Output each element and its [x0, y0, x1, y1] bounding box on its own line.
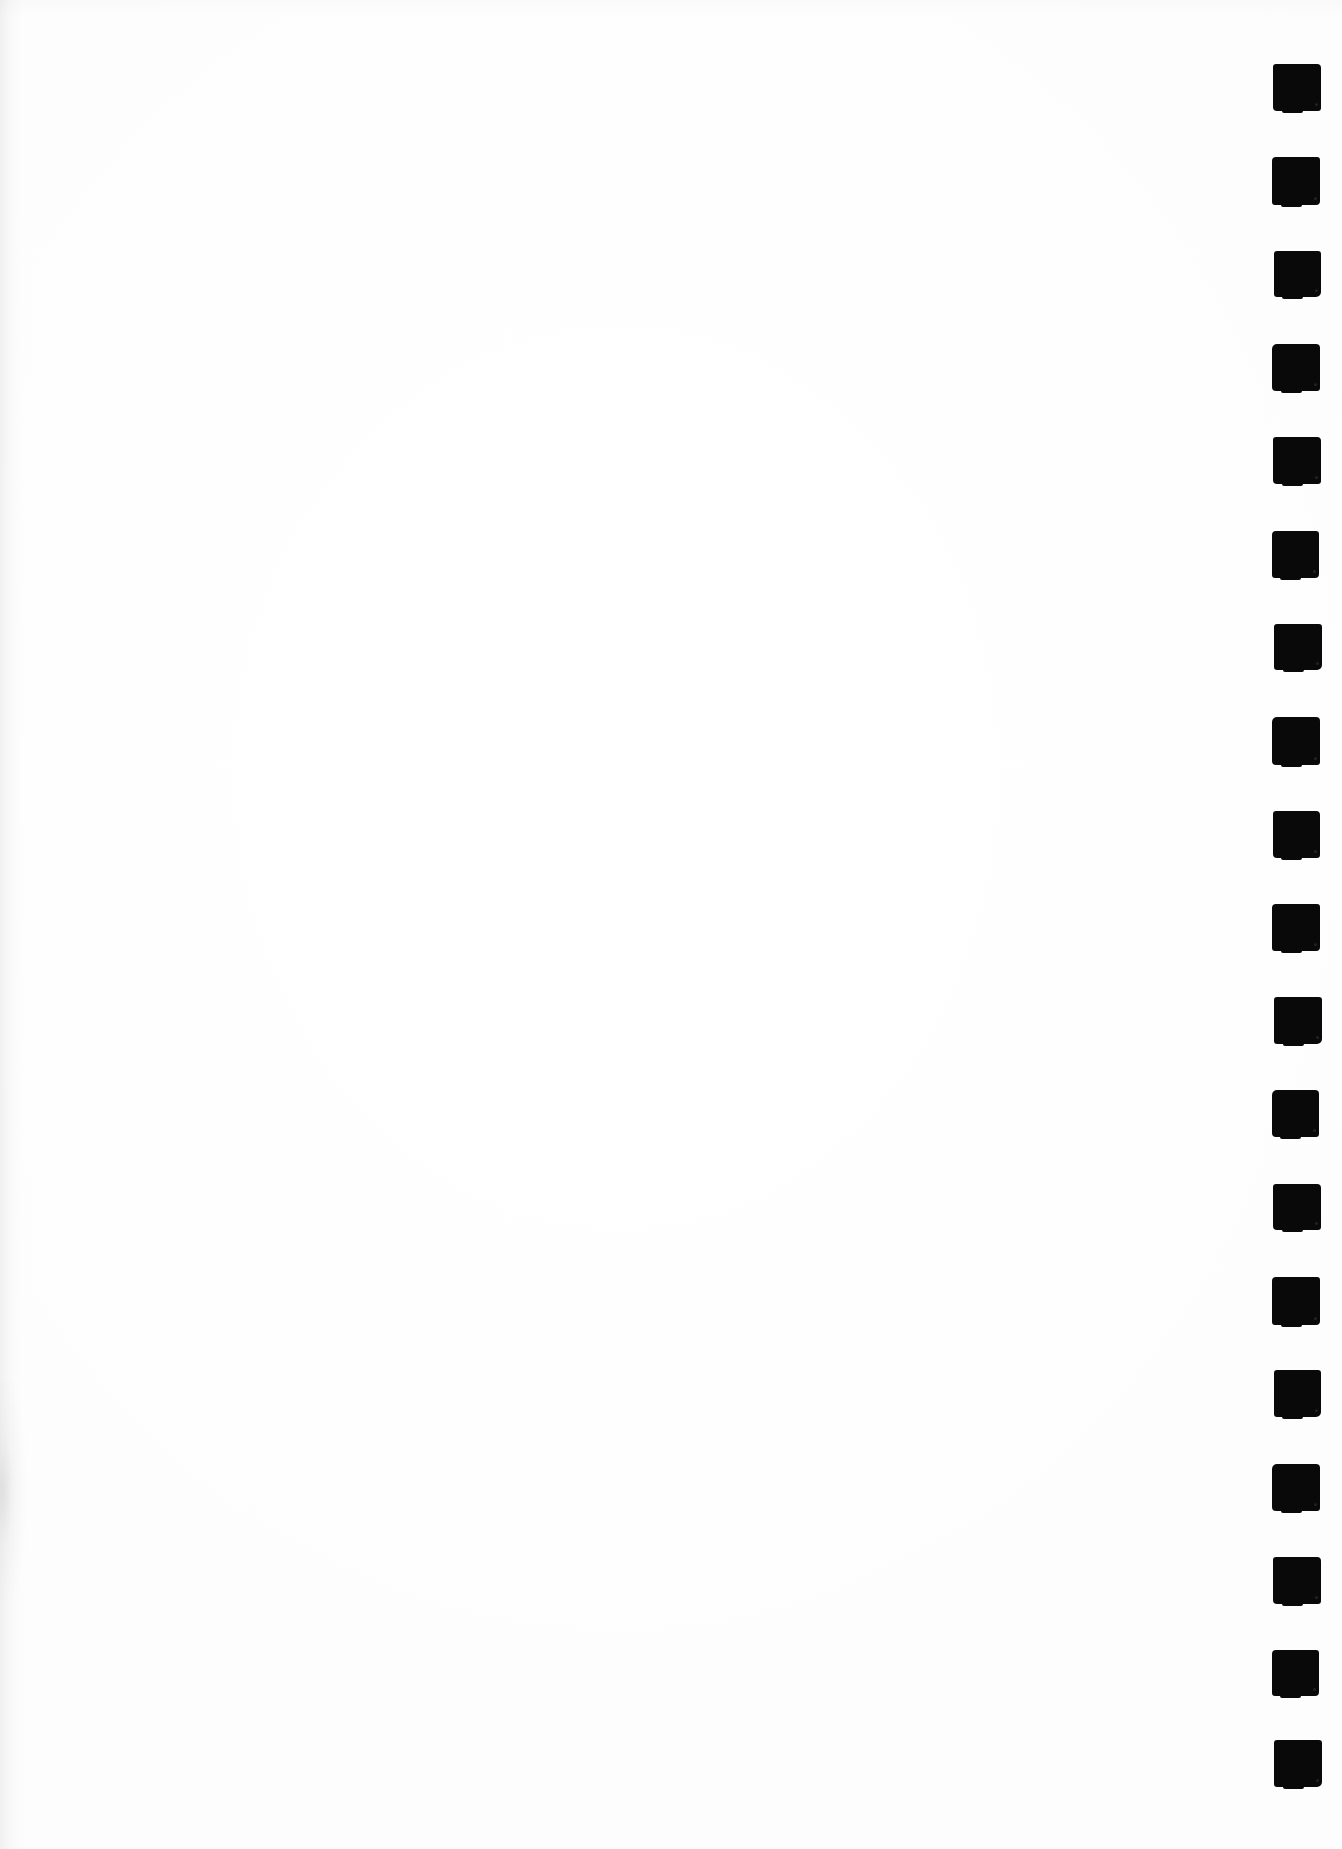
register-mark: [1273, 811, 1320, 858]
register-mark: [1273, 437, 1321, 484]
register-mark: [1272, 717, 1320, 765]
register-mark: [1274, 624, 1322, 670]
register-mark: [1273, 1184, 1321, 1230]
register-mark: [1272, 344, 1320, 391]
register-mark: [1272, 904, 1320, 951]
register-mark: [1273, 1557, 1321, 1604]
register-mark: [1272, 1090, 1319, 1137]
register-mark: [1272, 1277, 1320, 1325]
register-mark: [1272, 157, 1320, 205]
register-mark: [1274, 1370, 1321, 1417]
register-mark: [1274, 251, 1321, 297]
register-mark-column: [0, 0, 1342, 1849]
register-mark: [1274, 1740, 1322, 1787]
register-mark: [1272, 1464, 1320, 1511]
register-mark: [1272, 531, 1319, 578]
register-mark: [1273, 64, 1321, 111]
scanned-page: [0, 0, 1342, 1849]
register-mark: [1272, 1650, 1319, 1696]
register-mark: [1274, 997, 1322, 1044]
